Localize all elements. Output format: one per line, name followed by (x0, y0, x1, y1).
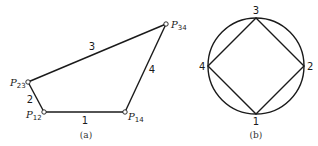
pivot-label-p14: P14 (127, 111, 144, 124)
caption-b: (b) (250, 130, 263, 140)
vertex-label-4: 4 (199, 61, 205, 72)
pivot-label-p34: P34 (170, 19, 187, 32)
vertex-label-2: 2 (307, 61, 313, 72)
caption-a: (a) (80, 130, 92, 140)
pivot-p12 (42, 110, 46, 114)
circle-outline (208, 18, 304, 114)
pivot-p23 (26, 80, 30, 84)
pivot-p14 (123, 110, 127, 114)
kinematic-diagram: 1 2 3 4 P23 P12 P34 P14 (a) 3 2 1 4 (b) (0, 0, 318, 146)
link-label-3: 3 (89, 41, 95, 52)
pivot-p34 (164, 22, 168, 26)
pivot-label-p12: P12 (25, 109, 42, 122)
figure-a-linkage: 1 2 3 4 P23 P12 P34 P14 (a) (9, 19, 187, 140)
vertex-label-1: 1 (253, 116, 259, 127)
vertex-label-3: 3 (253, 5, 259, 16)
link-label-2: 2 (27, 94, 33, 105)
pivot-label-p23: P23 (9, 77, 26, 90)
figure-b-circle-diagram: 3 2 1 4 (b) (199, 5, 313, 140)
link-4 (125, 24, 166, 112)
link-label-1: 1 (82, 115, 88, 126)
link-label-4: 4 (149, 64, 155, 75)
link-3 (28, 24, 166, 82)
